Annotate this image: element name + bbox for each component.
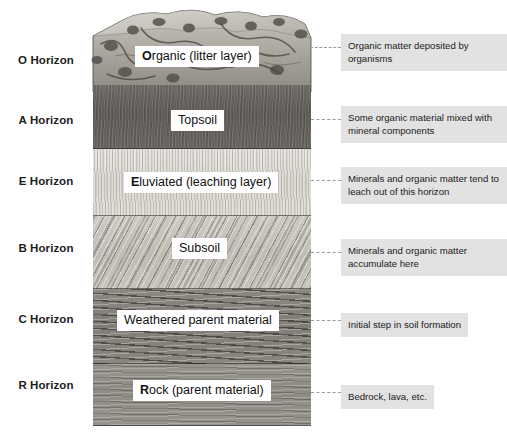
chip-label-o: Organic (litter layer) — [135, 46, 259, 67]
chip-label-a: Topsoil — [171, 110, 224, 131]
annotation-b: Minerals and organic matter accumulate h… — [341, 239, 507, 276]
chip-label-e: Eluviated (leaching layer) — [124, 172, 278, 193]
chip-e-rest: luviated (leaching layer) — [139, 175, 271, 189]
leader-line-b — [311, 252, 341, 253]
chip-label-c: Weathered parent material — [117, 310, 279, 331]
annotation-c: Initial step in soil formation — [341, 313, 468, 337]
horizon-label-a: A Horizon — [0, 114, 92, 127]
soil-profile-block — [93, 4, 311, 426]
horizon-label-e: E Horizon — [0, 175, 92, 188]
leader-line-c — [311, 320, 341, 321]
annotation-e: Minerals and organic matter tend to leac… — [341, 167, 507, 204]
chip-r-rest: ock (parent material) — [149, 383, 264, 397]
chip-o-rest: rganic (litter layer) — [152, 49, 252, 63]
chip-label-b: Subsoil — [172, 238, 227, 259]
chip-o-initial: O — [142, 49, 152, 63]
horizon-label-r: R Horizon — [0, 379, 92, 392]
chip-a-rest: Topsoil — [178, 113, 217, 127]
horizon-label-o: O Horizon — [0, 54, 92, 67]
chip-r-initial: R — [140, 383, 149, 397]
chip-label-r: Rock (parent material) — [133, 380, 271, 401]
horizon-label-b: B Horizon — [0, 242, 92, 255]
chip-c-rest: Weathered parent material — [124, 313, 272, 327]
leader-line-e — [311, 180, 341, 181]
chip-b-rest: Subsoil — [179, 241, 220, 255]
leader-line-a — [311, 119, 341, 120]
annotation-a: Some organic material mixed with mineral… — [341, 106, 507, 143]
annotation-r: Bedrock, lava, etc. — [341, 385, 434, 409]
leader-line-o — [310, 47, 341, 48]
horizon-label-c: C Horizon — [0, 313, 92, 326]
annotation-o: Organic matter deposited by organisms — [341, 34, 507, 71]
leader-line-r — [311, 392, 341, 393]
